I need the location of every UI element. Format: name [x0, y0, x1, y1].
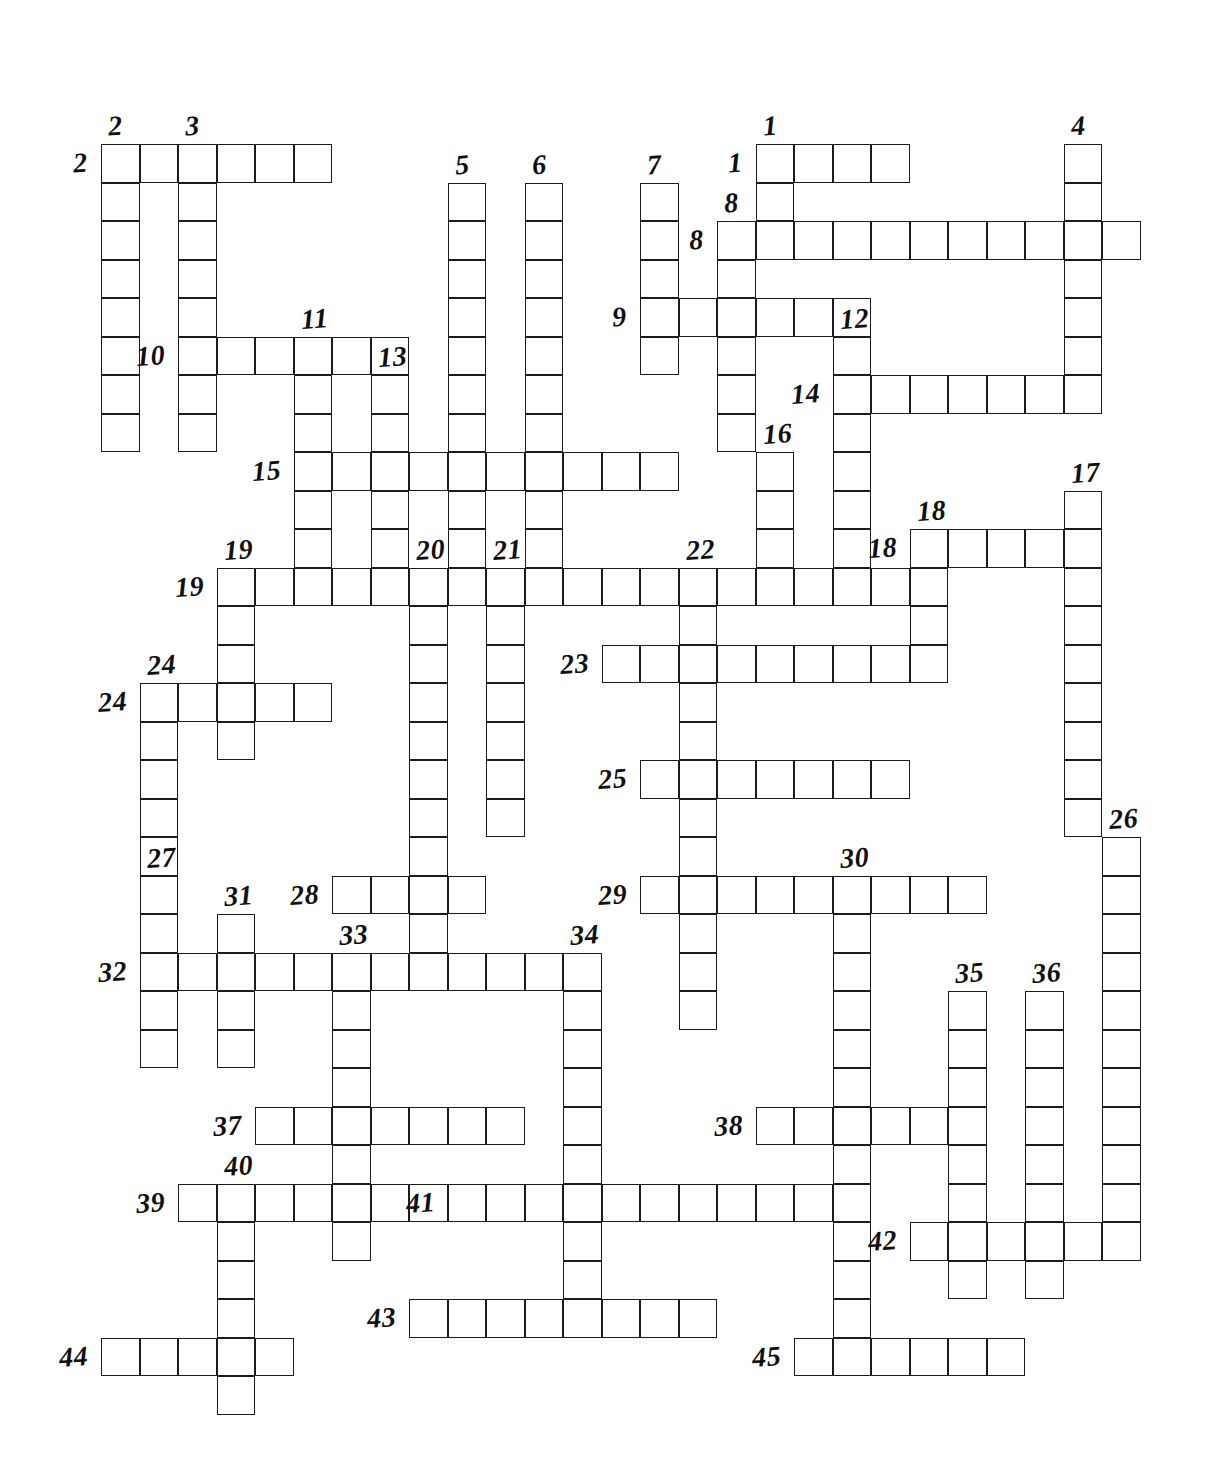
clue-number-28-across: 28	[289, 880, 320, 910]
clue-number-36-down: 36	[1031, 958, 1062, 988]
clue-number-35-down: 35	[954, 958, 985, 988]
clue-number-7-down: 7	[646, 150, 662, 179]
clue-number-18-across: 18	[867, 533, 898, 563]
clue-number-6-down: 6	[531, 150, 547, 179]
clue-number-31-down: 31	[223, 881, 254, 911]
clue-number-11-down: 11	[300, 304, 329, 334]
clue-number-23-across: 23	[559, 649, 590, 679]
clue-number-4-down: 4	[1070, 112, 1086, 141]
clue-number-22-down: 22	[685, 535, 716, 565]
clue-number-30-down: 30	[839, 843, 870, 873]
clue-number-8-down: 8	[723, 189, 739, 218]
clue-number-1-down: 1	[762, 112, 778, 141]
clue-number-13-down: 13	[377, 342, 408, 372]
clue-number-33-down: 33	[338, 920, 369, 950]
clue-number-24-down: 24	[146, 650, 177, 680]
clue-number-37-across: 37	[212, 1111, 243, 1141]
clue-number-3-down: 3	[184, 112, 200, 141]
clue-number-12-down: 12	[839, 304, 870, 334]
clue-number-43-across: 43	[366, 1303, 397, 1333]
clue-number-1-across: 1	[727, 149, 743, 178]
clue-number-21-down: 21	[492, 535, 523, 565]
crossword-puzzle: 1122345678891011121314151617181819192021…	[0, 0, 1211, 1474]
clue-number-17-down: 17	[1070, 458, 1101, 488]
clue-number-26-down: 26	[1108, 804, 1139, 834]
clue-number-27-down: 27	[146, 843, 177, 873]
clue-number-44-across: 44	[58, 1342, 89, 1372]
clue-number-10-across: 10	[135, 341, 166, 371]
clue-number-19-down: 19	[223, 535, 254, 565]
clue-number-34-down: 34	[569, 920, 600, 950]
clue-number-14-across: 14	[790, 379, 821, 409]
clue-number-20-down: 20	[415, 535, 446, 565]
clue-number-45-across: 45	[751, 1342, 782, 1372]
clue-number-15-across: 15	[251, 456, 282, 486]
clue-number-39-across: 39	[135, 1188, 166, 1218]
clue-number-9-across: 9	[611, 303, 627, 332]
clue-number-19-across: 19	[174, 572, 205, 602]
clue-number-24-across: 24	[97, 687, 128, 717]
clue-number-8-across: 8	[688, 226, 704, 255]
clue-number-2-down: 2	[107, 112, 123, 141]
clue-number-42-across: 42	[867, 1226, 898, 1256]
crossword-number-layer: 1122345678891011121314151617181819192021…	[0, 0, 1211, 1474]
clue-number-16-down: 16	[762, 419, 793, 449]
clue-number-40-down: 40	[223, 1151, 254, 1181]
clue-number-32-across: 32	[97, 957, 128, 987]
clue-number-41-across: 41	[405, 1188, 436, 1218]
clue-number-5-down: 5	[454, 150, 470, 179]
clue-number-18-down: 18	[916, 496, 947, 526]
clue-number-29-across: 29	[597, 880, 628, 910]
clue-number-2-across: 2	[72, 149, 88, 178]
clue-number-38-across: 38	[713, 1111, 744, 1141]
clue-number-25-across: 25	[597, 764, 628, 794]
